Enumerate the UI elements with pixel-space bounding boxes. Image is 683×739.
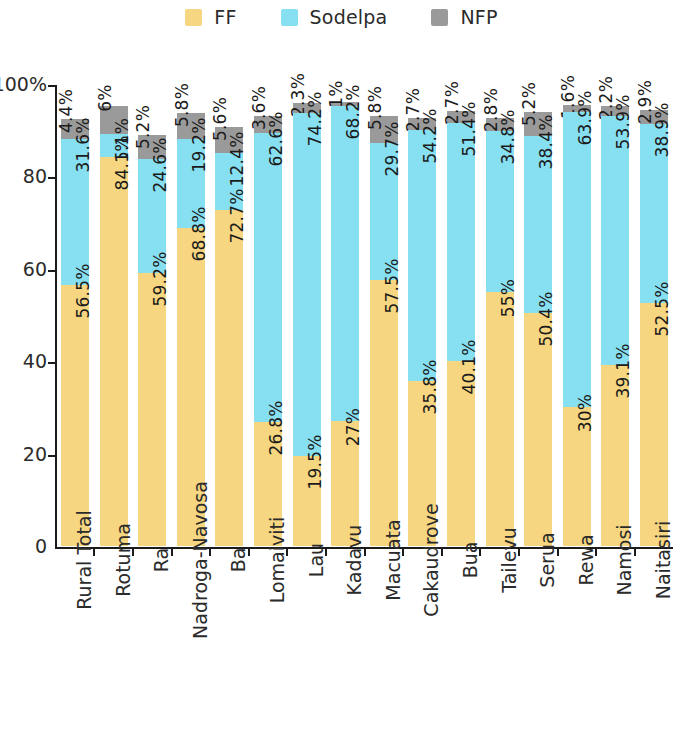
bar-segment-value-label: 34.8% [500, 110, 517, 165]
bar-segment-ff[interactable]: 72.7% [215, 210, 243, 546]
bar-segment-value-label: 12.4% [229, 131, 246, 186]
bar-segment-sodelpa[interactable]: 53.9% [601, 116, 629, 365]
y-axis-tick-label: 20 [23, 445, 47, 464]
stacked-bar[interactable]: 2.8%34.8%55% [486, 118, 514, 546]
bar-segment-value-label: 27% [345, 408, 362, 446]
bar-segment-value-label: 40.1% [461, 339, 478, 394]
bar-segment-sodelpa[interactable]: 38.4% [524, 136, 552, 313]
bar-segment-value-label: 26.8% [268, 401, 285, 456]
bar-segment-value-label: 55% [500, 279, 517, 317]
y-axis-tick-label: 0 [35, 537, 47, 556]
bar-segment-sodelpa[interactable]: 62.6% [254, 133, 282, 422]
bar-segment-ff[interactable]: 52.5% [640, 303, 668, 546]
bar-segment-value-label: 52.5% [654, 282, 671, 337]
bar-segment-value-label: 68.2% [345, 85, 362, 140]
bar-segment-value-label: 62.6% [268, 111, 285, 166]
bar-segment-ff[interactable]: 84.1% [100, 157, 128, 546]
bar-segment-value-label: 57.5% [384, 259, 401, 314]
stacked-bar[interactable]: 1%68.2%27% [331, 102, 359, 546]
x-axis-category-text: Rewa [577, 534, 596, 585]
stacked-bar[interactable]: 4.4%31.6%56.5% [61, 119, 89, 546]
bar-segment-value-label: 54.2% [422, 109, 439, 164]
bar-segment-ff[interactable]: 55% [486, 292, 514, 546]
legend-item-nfp[interactable]: NFP [431, 8, 497, 27]
stacked-bar[interactable]: 2.9%38.9%52.5% [640, 110, 668, 546]
bar-segment-value-label: 84.1% [114, 136, 131, 191]
bar-segment-value-label: 51.4% [461, 102, 478, 157]
bar-segment-sodelpa[interactable]: 38.9% [640, 124, 668, 304]
x-axis-category-text: Tailevu [500, 527, 519, 593]
legend-item-ff[interactable]: FF [185, 8, 236, 27]
legend-swatch-icon [185, 9, 202, 26]
bar-segment-value-label: 39.1% [615, 344, 632, 399]
bar-segment-ff[interactable]: 30% [563, 407, 591, 546]
stacked-bar[interactable]: 5.6%12.4%72.7% [215, 127, 243, 546]
bar-segment-sodelpa[interactable]: 63.9% [563, 112, 591, 407]
stacked-bar[interactable]: 2.2%53.9%39.1% [601, 106, 629, 546]
stacked-bar[interactable]: 5.2%38.4%50.4% [524, 112, 552, 546]
bar-segment-value-label: 50.4% [538, 292, 555, 347]
bar-segment-ff[interactable]: 56.5% [61, 285, 89, 546]
x-axis-category-text: Rotuma [114, 523, 133, 597]
x-axis-category-text: Lomaiviti [268, 517, 287, 604]
stacked-bar[interactable]: 2.7%54.2%35.8% [408, 118, 436, 546]
y-axis-tick-label: 80 [23, 168, 47, 187]
x-axis-category-text: Rural Total [75, 510, 94, 610]
bar-segment-value-label: 19.2% [191, 118, 208, 173]
stacked-bar[interactable]: 5.8%29.7%57.5% [370, 116, 398, 546]
bar-segment-sodelpa[interactable]: 54.2% [408, 130, 436, 380]
y-axis-tick-mark [48, 455, 56, 457]
x-axis-category-labels: Rural TotalRotumaRaNadroga-NavosaBaLomai… [56, 560, 673, 736]
y-axis-tick-label: 60 [23, 260, 47, 279]
plot-area: 100%8060402004.4%31.6%56.5%6%5.1%84.1%5.… [56, 85, 673, 548]
legend-item-sodelpa[interactable]: Sodelpa [281, 8, 388, 27]
stacked-bar[interactable]: 2.3%74.2%19.5% [293, 103, 321, 547]
x-axis-category-text: Lau [307, 543, 326, 577]
bar-segment-ff[interactable]: 19.5% [293, 456, 321, 546]
bar-segment-value-label: 72.7% [229, 189, 246, 244]
stacked-bar-chart: FFSodelpaNFP 100%8060402004.4%31.6%56.5%… [0, 0, 683, 739]
x-axis-category-text: Cakaudrove [422, 503, 441, 616]
bar-segment-value-label: 29.7% [384, 122, 401, 177]
bar-segment-value-label: 38.9% [654, 102, 671, 157]
bar-segment-ff[interactable]: 50.4% [524, 313, 552, 546]
x-axis-category-text: Ba [229, 548, 248, 573]
bar-segment-value-label: 53.9% [615, 95, 632, 150]
bar-segment-value-label: 24.6% [152, 137, 169, 192]
chart-legend: FFSodelpaNFP [0, 0, 683, 34]
bar-segment-sodelpa[interactable]: 34.8% [486, 131, 514, 292]
bar-segment-ff[interactable]: 40.1% [447, 361, 475, 546]
y-axis-tick-mark [48, 270, 56, 272]
legend-swatch-icon [281, 9, 298, 26]
legend-label: FF [214, 8, 236, 27]
stacked-bar[interactable]: 2.7%51.4%40.1% [447, 111, 475, 546]
bar-segment-value-label: 19.5% [307, 434, 324, 489]
x-axis-category-text: Macuata [384, 519, 403, 600]
bar-segment-value-label: 30% [577, 394, 594, 432]
stacked-bar[interactable]: 3.6%62.6%26.8% [254, 116, 282, 546]
bar-segment-value-label: 38.4% [538, 114, 555, 169]
stacked-bar[interactable]: 1.6%63.9%30% [563, 105, 591, 546]
x-axis-category-text: Kadavu [345, 525, 364, 596]
x-axis-category-text: Serua [538, 532, 557, 587]
legend-label: NFP [460, 8, 497, 27]
bar-segment-value-label: 74.2% [307, 92, 324, 147]
bar-segment-ff[interactable]: 39.1% [601, 365, 629, 546]
stacked-bar[interactable]: 5.2%24.6%59.2% [138, 135, 166, 546]
bar-segment-sodelpa[interactable]: 68.2% [331, 106, 359, 421]
bar-segment-value-label: 68.8% [191, 207, 208, 262]
bar-segment-value-label: 63.9% [577, 91, 594, 146]
bar-segment-sodelpa[interactable]: 74.2% [293, 113, 321, 456]
x-axis-category-text: Ra [152, 548, 171, 572]
y-axis-tick-mark [48, 177, 56, 179]
bar-segment-value-label: 6% [97, 85, 114, 112]
bar-segment-ff[interactable]: 57.5% [370, 280, 398, 546]
bar-segment-ff[interactable]: 59.2% [138, 273, 166, 547]
legend-label: Sodelpa [310, 8, 388, 27]
bar-segment-value-label: 59.2% [152, 251, 169, 306]
x-axis-category-text: Namosi [615, 524, 634, 595]
x-axis-category-text: Nadroga-Navosa [191, 481, 210, 639]
bar-segment-value-label: 35.8% [422, 359, 439, 414]
bar-segment-sodelpa[interactable]: 51.4% [447, 123, 475, 360]
stacked-bar[interactable]: 6%5.1%84.1% [100, 106, 128, 546]
